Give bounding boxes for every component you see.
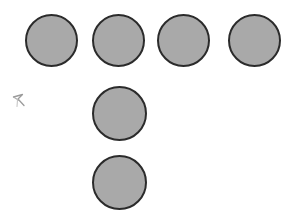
- circle-shape[interactable]: [25, 14, 78, 67]
- drawing-canvas: [0, 0, 304, 223]
- circle-shape[interactable]: [228, 14, 281, 67]
- circle-shape[interactable]: [92, 86, 147, 141]
- circle-shape[interactable]: [157, 14, 210, 67]
- arrow-cursor-icon: [11, 93, 29, 109]
- circle-shape[interactable]: [92, 155, 147, 210]
- circle-shape[interactable]: [92, 14, 145, 67]
